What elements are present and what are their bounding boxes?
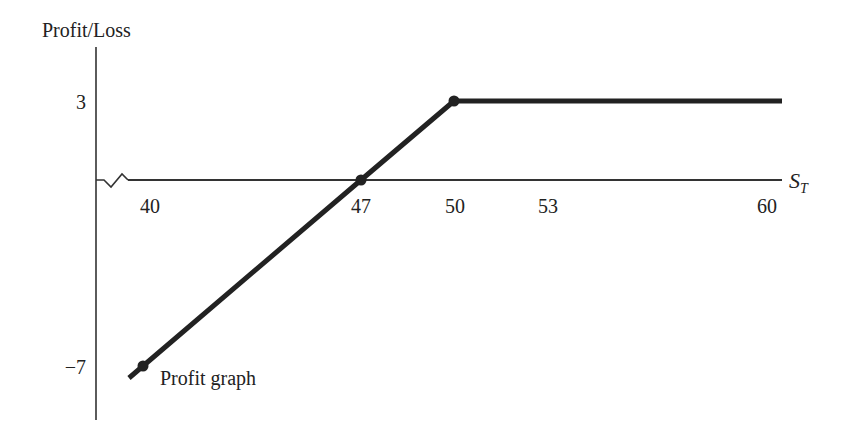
data-point-40 bbox=[138, 361, 149, 372]
chart-canvas bbox=[0, 0, 858, 446]
profit-loss-chart: Profit/Loss 3 −7 40 47 50 53 60 ST Profi… bbox=[0, 0, 858, 446]
x-tick-label: 50 bbox=[445, 196, 465, 216]
profit-line bbox=[129, 101, 782, 378]
y-axis-title: Profit/Loss bbox=[42, 20, 131, 40]
x-tick-label: 53 bbox=[538, 196, 558, 216]
y-tick-label: −7 bbox=[65, 357, 86, 377]
y-tick-label: 3 bbox=[76, 92, 86, 112]
data-point-50 bbox=[449, 96, 460, 107]
x-tick-label: 60 bbox=[757, 196, 777, 216]
data-point-47 bbox=[356, 175, 367, 186]
profit-graph-annotation: Profit graph bbox=[160, 368, 256, 388]
x-tick-label: 47 bbox=[351, 196, 371, 216]
x-axis-title-main: S bbox=[789, 168, 800, 193]
x-axis-break-icon bbox=[96, 174, 128, 187]
x-axis-title-subscript: T bbox=[800, 181, 808, 196]
x-axis-title: ST bbox=[789, 170, 808, 196]
x-tick-label: 40 bbox=[140, 196, 160, 216]
